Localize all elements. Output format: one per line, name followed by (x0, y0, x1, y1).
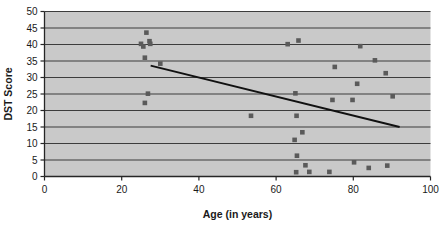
y-tick-label: 5 (32, 155, 38, 166)
data-point-marker (358, 44, 363, 49)
y-tick-label: 25 (26, 89, 38, 100)
data-point-marker (332, 65, 337, 70)
data-point-marker (148, 42, 153, 47)
y-tick-label: 45 (26, 23, 38, 34)
data-point-marker (146, 91, 151, 96)
x-tick-label: 80 (348, 184, 360, 195)
data-point-marker (143, 55, 148, 60)
x-axis-ticks: 020406080100 (42, 177, 440, 195)
data-point-marker (390, 94, 395, 99)
data-point-marker (330, 98, 335, 103)
y-tick-label: 40 (26, 39, 38, 50)
y-tick-label: 20 (26, 105, 38, 116)
y-tick-label: 50 (26, 6, 38, 17)
data-point-marker (285, 42, 290, 47)
data-point-marker (158, 61, 163, 66)
data-point-marker (294, 113, 299, 118)
data-point-marker (327, 170, 332, 175)
y-tick-label: 10 (26, 138, 38, 149)
y-tick-label: 15 (26, 122, 38, 133)
data-point-marker (307, 170, 312, 175)
data-point-marker (366, 166, 371, 171)
data-point-marker (300, 130, 305, 135)
y-tick-label: 35 (26, 56, 38, 67)
data-point-marker (295, 153, 300, 158)
data-point-marker (303, 163, 308, 168)
data-point-marker (383, 71, 388, 76)
data-point-marker (249, 113, 254, 118)
data-point-marker (144, 30, 149, 35)
data-point-marker (296, 38, 301, 43)
data-point-marker (141, 44, 146, 49)
x-tick-label: 20 (116, 184, 128, 195)
x-tick-label: 0 (42, 184, 48, 195)
x-tick-label: 40 (193, 184, 205, 195)
y-axis-title: DST Score (2, 67, 14, 120)
data-point-marker (293, 91, 298, 96)
x-tick-label: 60 (271, 184, 283, 195)
scatter-chart: 05101520253035404550020406080100Age (in … (0, 0, 445, 227)
data-point-marker (355, 81, 360, 86)
data-point-marker (350, 98, 355, 103)
x-axis-title: Age (in years) (203, 208, 272, 220)
data-point-marker (385, 163, 390, 168)
y-axis-ticks: 05101520253035404550 (26, 6, 44, 182)
data-point-marker (352, 160, 357, 165)
data-point-marker (292, 138, 297, 143)
y-tick-label: 0 (32, 171, 38, 182)
chart-canvas: 05101520253035404550020406080100Age (in … (0, 0, 445, 227)
data-point-marker (143, 101, 148, 106)
data-point-marker (373, 58, 378, 63)
y-tick-label: 30 (26, 72, 38, 83)
data-point-marker (294, 170, 299, 175)
x-tick-label: 100 (422, 184, 439, 195)
